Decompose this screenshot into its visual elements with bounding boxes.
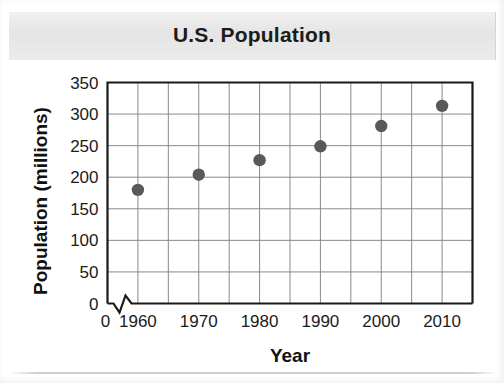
scatter-plot: 50100150200250300350 1960197019801990200… bbox=[0, 0, 504, 383]
data-point bbox=[436, 100, 448, 112]
data-point bbox=[314, 140, 326, 152]
x-origin-label: 0 bbox=[101, 312, 110, 331]
x-tick-label: 1980 bbox=[241, 312, 279, 331]
x-tick-label: 1960 bbox=[119, 312, 157, 331]
x-tick-label: 1970 bbox=[180, 312, 218, 331]
y-tick-label: 350 bbox=[70, 74, 98, 93]
y-tick-label: 150 bbox=[70, 200, 98, 219]
y-tick-label: 200 bbox=[70, 168, 98, 187]
y-tick-labels: 50100150200250300350 bbox=[70, 74, 98, 282]
y-tick-label: 100 bbox=[70, 231, 98, 250]
y-tick-label: 50 bbox=[80, 263, 99, 282]
chart-figure: U.S. Population Population (millions) Ye… bbox=[0, 0, 504, 383]
page-bottom-rule bbox=[8, 372, 498, 374]
x-gridlines bbox=[138, 83, 442, 304]
data-point bbox=[132, 184, 144, 196]
y-origin-label: 0 bbox=[89, 295, 98, 314]
y-tick-label: 300 bbox=[70, 105, 98, 124]
data-point bbox=[253, 154, 265, 166]
data-point bbox=[193, 168, 205, 180]
x-tick-labels: 196019701980199020002010 bbox=[119, 312, 461, 331]
x-tick-label: 2010 bbox=[423, 312, 461, 331]
data-point bbox=[375, 120, 387, 132]
x-tick-label: 1990 bbox=[302, 312, 340, 331]
x-tick-label: 2000 bbox=[362, 312, 400, 331]
y-tick-label: 250 bbox=[70, 137, 98, 156]
